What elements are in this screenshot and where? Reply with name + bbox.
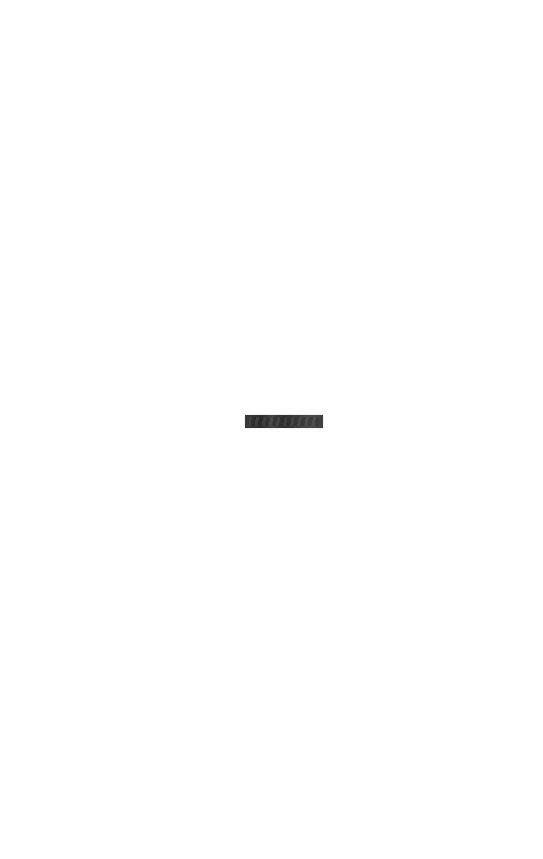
redacted-text-bar [245, 415, 323, 428]
blank-page [0, 0, 543, 859]
